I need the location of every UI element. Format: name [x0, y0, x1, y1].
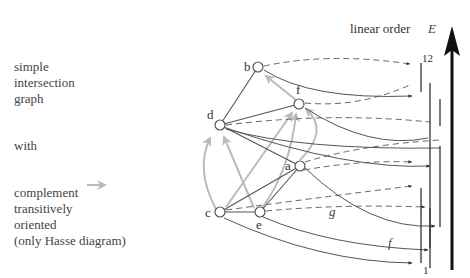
- node-d: [215, 120, 225, 130]
- node-c: [215, 207, 225, 217]
- node-e: [255, 207, 265, 217]
- tick-top: 12: [422, 52, 433, 64]
- dashed-curves: [226, 58, 440, 211]
- node-b: [253, 62, 263, 72]
- edge-label-g: g: [329, 204, 336, 219]
- tick-bottom: 1: [423, 264, 429, 276]
- node-label-e: e: [256, 217, 262, 232]
- axis-symbol: E: [427, 21, 436, 36]
- node-label-d: d: [207, 107, 214, 122]
- node-a: [295, 161, 305, 171]
- interval-bars: [421, 63, 440, 268]
- linear-order-axis: [444, 26, 460, 270]
- diagram-canvas: linear order E 12 1 g f b f d a c e: [0, 0, 470, 278]
- solid-curves: [224, 70, 440, 263]
- node-label-a: a: [285, 158, 291, 173]
- node-label-b: b: [244, 59, 251, 74]
- axis-label: linear order: [350, 21, 411, 36]
- node-label-f: f: [296, 82, 301, 97]
- graph-edges: [220, 67, 300, 212]
- node-f: [294, 99, 304, 109]
- node-label-c: c: [205, 205, 211, 220]
